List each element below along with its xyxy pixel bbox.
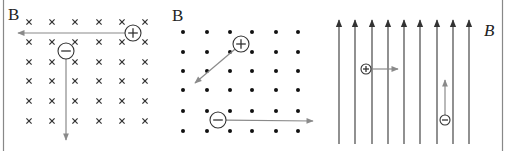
field-label-b-italic: B	[484, 21, 495, 40]
dot-icon	[228, 30, 232, 34]
dot-icon	[181, 30, 185, 34]
dot-icon	[250, 129, 254, 133]
dot-icon	[205, 129, 209, 133]
dot-icon	[181, 129, 185, 133]
x-mark-icon	[26, 118, 31, 123]
dot-icon	[228, 109, 232, 113]
field-label-b: B	[8, 5, 19, 24]
negative-charge	[440, 80, 450, 125]
dot-icon	[250, 30, 254, 34]
x-mark-icon	[49, 19, 54, 24]
dot-icon	[181, 109, 185, 113]
dot-icon	[181, 88, 185, 92]
dot-icon	[274, 88, 278, 92]
x-mark-icon	[142, 78, 147, 83]
x-mark-icon	[72, 78, 77, 83]
x-mark-icon	[49, 98, 54, 103]
dot-icon	[205, 50, 209, 54]
x-mark-icon	[119, 78, 124, 83]
x-mark-icon	[119, 118, 124, 123]
x-mark-icon	[26, 98, 31, 103]
x-mark-icon	[26, 59, 31, 64]
dot-icon	[205, 109, 209, 113]
x-mark-icon	[26, 39, 31, 44]
dot-icon	[250, 88, 254, 92]
velocity-arrow	[226, 120, 313, 121]
x-mark-icon	[26, 19, 31, 24]
dot-icon	[274, 69, 278, 73]
x-mark-icon	[72, 19, 77, 24]
dot-icon	[205, 88, 209, 92]
positive-charge	[18, 25, 141, 41]
dot-icon	[296, 129, 300, 133]
dot-icon	[274, 109, 278, 113]
x-mark-icon	[119, 98, 124, 103]
x-mark-icon	[96, 59, 101, 64]
x-mark-icon	[119, 59, 124, 64]
velocity-arrow	[195, 49, 235, 83]
x-mark-icon	[142, 39, 147, 44]
x-mark-icon	[72, 59, 77, 64]
x-mark-icon	[49, 59, 54, 64]
x-mark-icon	[142, 118, 147, 123]
x-mark-icon	[119, 19, 124, 24]
field-lines	[339, 20, 469, 144]
x-mark-icon	[96, 39, 101, 44]
panel-field-out-of-page: B	[172, 6, 313, 133]
magnetic-field-diagram: B B B	[0, 0, 511, 151]
dot-icon	[274, 129, 278, 133]
x-mark-icon	[142, 59, 147, 64]
x-mark-icon	[96, 78, 101, 83]
dot-icon	[228, 88, 232, 92]
dot-icon	[181, 50, 185, 54]
panel-field-upward: B	[339, 20, 495, 144]
dot-icon	[296, 30, 300, 34]
dot-icon	[250, 109, 254, 113]
dot-icon	[228, 129, 232, 133]
dot-icon	[250, 50, 254, 54]
x-mark-icon	[119, 39, 124, 44]
panel-field-into-page: B	[8, 5, 148, 140]
dot-icon	[205, 30, 209, 34]
x-mark-icon	[26, 78, 31, 83]
dot-icon	[181, 69, 185, 73]
x-mark-icon	[49, 78, 54, 83]
dot-icon	[296, 69, 300, 73]
x-mark-icon	[96, 19, 101, 24]
negative-charge	[58, 43, 74, 140]
x-mark-icon	[72, 39, 77, 44]
dot-icon	[228, 69, 232, 73]
dot-icon	[274, 50, 278, 54]
x-mark-icon	[72, 98, 77, 103]
charges	[195, 36, 313, 128]
x-mark-icon	[96, 98, 101, 103]
x-mark-icon	[49, 118, 54, 123]
dot-icon	[296, 109, 300, 113]
x-mark-icon	[142, 98, 147, 103]
dot-icon	[250, 69, 254, 73]
x-mark-icon	[49, 39, 54, 44]
x-mark-icon	[142, 19, 147, 24]
dot-icon	[296, 50, 300, 54]
field-label-b: B	[172, 6, 183, 25]
negative-charge	[210, 112, 313, 128]
dot-icon	[274, 30, 278, 34]
positive-charge	[195, 36, 249, 83]
dot-icon	[296, 88, 300, 92]
positive-charge	[361, 64, 398, 74]
x-mark-icon	[96, 118, 101, 123]
x-mark-icon	[72, 118, 77, 123]
